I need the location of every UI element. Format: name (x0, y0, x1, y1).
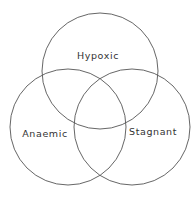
anaemic-label: Anaemic (22, 128, 68, 139)
hypoxic-label: Hypoxic (77, 50, 119, 61)
hypoxic-circle (42, 13, 158, 129)
venn-diagram: Hypoxic Anaemic Stagnant (0, 0, 196, 202)
anaemic-circle (10, 69, 126, 185)
stagnant-label: Stagnant (129, 126, 177, 137)
